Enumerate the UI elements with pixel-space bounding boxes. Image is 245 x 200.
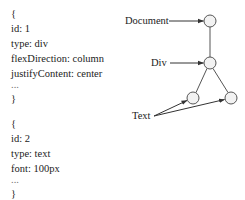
node-div <box>204 57 216 69</box>
tree-diagram <box>0 0 245 200</box>
label-text: Text <box>132 110 151 122</box>
label-div: Div <box>151 57 167 69</box>
arrow-text-left <box>154 101 187 117</box>
node-text-right <box>225 92 237 104</box>
label-document: Document <box>125 15 169 27</box>
node-text-left <box>187 92 199 104</box>
edge-div-text-right <box>213 69 228 93</box>
edge-div-text-left <box>196 69 207 93</box>
node-document <box>204 15 216 27</box>
